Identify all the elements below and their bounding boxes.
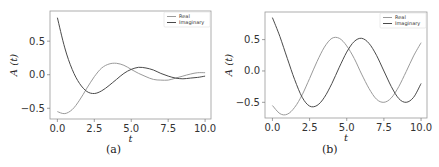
chart-b-ytick-label: 0.5 <box>244 34 260 45</box>
caption-b: (b) <box>322 143 338 156</box>
chart-b-ytick-label: −0.5 <box>236 97 260 108</box>
chart-b-xtick-label: 10.0 <box>410 122 432 133</box>
chart-b-ytick-label: 0.0 <box>244 65 260 76</box>
chart-b-legend: RealImaginary <box>380 13 426 28</box>
chart-b-svg: 0.02.55.07.510.0−0.50.00.5tA (t)RealImag… <box>0 0 439 167</box>
chart-panel-b: 0.02.55.07.510.0−0.50.00.5tA (t)RealImag… <box>0 0 219 167</box>
chart-b-xtick-label: 7.5 <box>376 122 392 133</box>
chart-b-series-imaginary <box>272 18 421 107</box>
chart-b-legend-label: Imaginary <box>395 20 420 27</box>
chart-b-ylabel: A (t) <box>223 54 234 77</box>
chart-b-xlabel: t <box>344 132 349 143</box>
chart-b-xtick-label: 2.5 <box>302 122 318 133</box>
chart-b-series-real <box>272 37 421 115</box>
chart-b-xtick-label: 0.0 <box>264 122 280 133</box>
